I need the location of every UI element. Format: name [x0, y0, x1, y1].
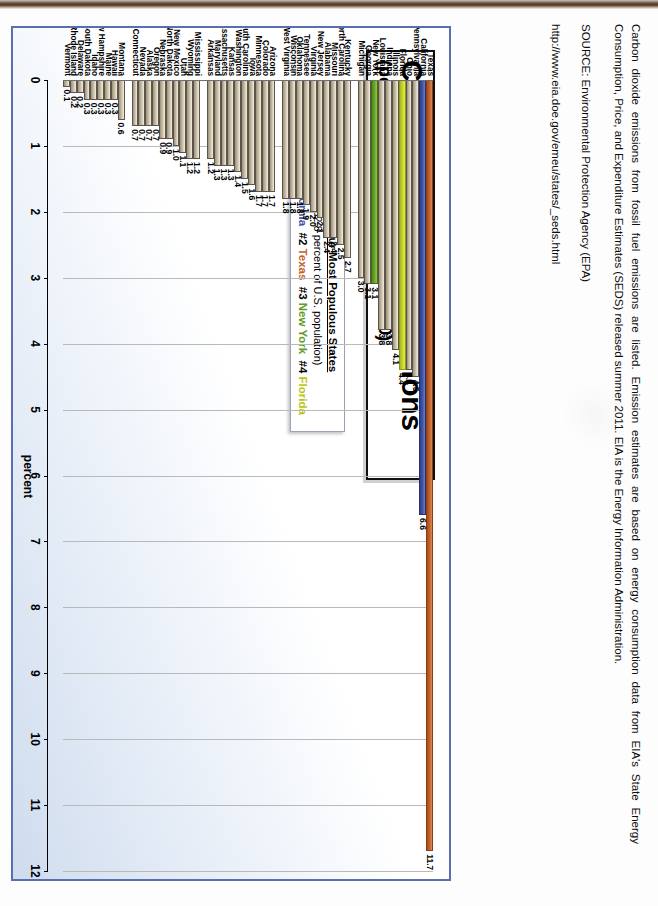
- bar-chart: Texas11.7California6.6Pennsylvania4.5Ohi…: [17, 80, 443, 873]
- bar-row: North Carolina2.5: [337, 80, 344, 871]
- axis-tick: [44, 476, 48, 477]
- bar: [296, 80, 303, 199]
- bar: [358, 80, 365, 278]
- bar: [166, 80, 173, 139]
- bar-row: New York3.1: [371, 80, 378, 871]
- bar-row: Montana0.6: [118, 80, 125, 871]
- bar: [419, 80, 426, 515]
- bar: [310, 80, 317, 212]
- bar: [412, 80, 419, 377]
- bar-row: New Jersey2.1: [317, 80, 324, 871]
- bar: [145, 80, 152, 126]
- category-label: Vermont: [62, 43, 70, 76]
- bar-row: Wyoming1.2: [186, 80, 193, 871]
- bar-value-label: 4.4: [398, 373, 407, 385]
- bar-row: Ohio4.4: [406, 80, 413, 871]
- bar: [323, 80, 330, 238]
- bar: [207, 80, 214, 159]
- axis-tick: [44, 410, 48, 411]
- bar: [221, 80, 228, 166]
- bar: [214, 80, 221, 166]
- category-axis-line: [63, 80, 433, 81]
- bar-row: Nevada0.7: [138, 80, 145, 871]
- scanned-page: Carbon Dioxide Emissions (percent of nat…: [0, 0, 658, 906]
- bar: [289, 80, 296, 199]
- bar-row: New Mexico1.0: [173, 80, 180, 871]
- bar-row: North Dakota0.9: [166, 80, 173, 871]
- bar: [180, 80, 187, 153]
- bar-row: Washington1.4: [234, 80, 241, 871]
- bar: [330, 80, 337, 238]
- category-label: Michigan: [357, 41, 365, 76]
- bar-row: Utah1.1: [180, 80, 187, 871]
- bar-row: Kentucky2.7: [344, 80, 351, 871]
- bar-row: Maryland1.3: [214, 80, 221, 871]
- axis-tick: [44, 80, 48, 81]
- bar-row: South Carolina1.5: [241, 80, 248, 871]
- bar-row: Virginia2.0: [310, 80, 317, 871]
- bar: [392, 80, 399, 350]
- bar: [104, 80, 111, 100]
- bar-value-label: 4.1: [391, 353, 400, 365]
- bar-value-label: 3.0: [357, 281, 366, 293]
- bar-value-label: 0.7: [131, 129, 140, 141]
- bar-row: Arkansas1.2: [207, 80, 214, 871]
- bar: [186, 80, 193, 159]
- slide-rotation-wrapper: Carbon Dioxide Emissions (percent of nat…: [11, 26, 451, 881]
- bar: [426, 80, 433, 851]
- bar: [241, 80, 248, 179]
- bar-row: California6.6: [419, 80, 426, 871]
- bar-row: Michigan3.0: [358, 80, 365, 871]
- bar-row: Mississippi1.2: [193, 80, 200, 871]
- bar-row: Georgia3.1: [365, 80, 372, 871]
- axis-title: percent: [21, 80, 35, 873]
- axis-tick: [44, 673, 48, 674]
- bar-row: Pennsylvania4.5: [412, 80, 419, 871]
- bar-row: Wisconsin1.8: [289, 80, 296, 871]
- bar: [406, 80, 413, 370]
- bar: [227, 80, 234, 166]
- category-label: Arkansas: [206, 39, 214, 76]
- bar-row: Delaware0.2: [77, 80, 84, 871]
- note-url[interactable]: http://www.eia.doe.gov/emeu/states/_seds…: [547, 24, 564, 844]
- bar-row: Louisiana3.8: [378, 80, 385, 871]
- bar-row: Hawaii0.3: [111, 80, 118, 871]
- bar: [234, 80, 241, 172]
- bar: [365, 80, 372, 284]
- bar: [152, 80, 159, 126]
- bar: [262, 80, 269, 192]
- bar-row: Iowa1.6: [248, 80, 255, 871]
- bar: [399, 80, 406, 370]
- bar-value-label: 2.7: [343, 261, 352, 273]
- value-axis: 0123456789101112: [47, 80, 48, 871]
- note-source: SOURCE: Environmental Protection Agency …: [577, 24, 594, 844]
- bar: [90, 80, 97, 100]
- gridline: [63, 871, 433, 872]
- bar-value-label: 1.2: [206, 162, 215, 174]
- bar-series: Texas11.7California6.6Pennsylvania4.5Ohi…: [63, 80, 433, 871]
- bar-row: Alabama2.4: [323, 80, 330, 871]
- bar-row: Idaho0.3: [90, 80, 97, 871]
- category-label: West Virginia: [282, 26, 290, 76]
- bar-value-label: 1.8: [281, 202, 290, 214]
- bar: [77, 80, 84, 93]
- bar-row: Oklahoma1.8: [296, 80, 303, 871]
- bar-row: Maine0.3: [104, 80, 111, 871]
- bar: [337, 80, 344, 245]
- bar-row: Tennessee1.9: [303, 80, 310, 871]
- axis-tick: [44, 146, 48, 147]
- bar: [132, 80, 139, 126]
- bar-value-label: 2.4: [323, 241, 332, 253]
- bar-row: Oregon0.7: [152, 80, 159, 871]
- bar: [269, 80, 276, 192]
- bar: [255, 80, 262, 192]
- axis-tick: [44, 344, 48, 345]
- axis-tick: [44, 739, 48, 740]
- bar-row: Indiana3.8: [385, 80, 392, 871]
- bar: [97, 80, 104, 100]
- bar-value-label: 6.6: [418, 518, 427, 530]
- axis-tick: [44, 278, 48, 279]
- bar-row: Kansas1.3: [227, 80, 234, 871]
- bar-value-label: 0.1: [62, 90, 71, 102]
- bar-row: Massachusetts1.3: [221, 80, 228, 871]
